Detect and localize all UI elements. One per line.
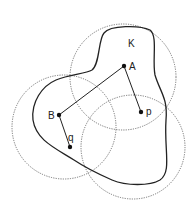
label-p: p (146, 106, 152, 117)
label-A: A (129, 61, 136, 72)
dotted-circle-bottom-right (81, 95, 185, 199)
dotted-circle-left (12, 75, 116, 179)
diagram-canvas: K A p B q (0, 0, 193, 205)
segment-A-B (59, 66, 124, 115)
point-q (68, 145, 72, 149)
label-K: K (128, 38, 135, 49)
label-B: B (48, 110, 55, 121)
point-A (122, 64, 126, 68)
point-B (57, 113, 61, 117)
label-q: q (68, 132, 74, 143)
segment-A-p (124, 66, 141, 112)
dotted-circle-top (70, 24, 176, 130)
point-p (139, 110, 143, 114)
